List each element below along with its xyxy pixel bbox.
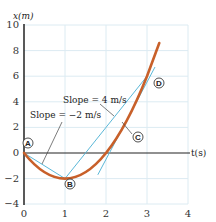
svg-text:A: A	[25, 139, 31, 148]
slope-pos-label: Slope = 4 m/s	[63, 95, 127, 105]
x-tick-labels: 0 1 2 3 4	[21, 208, 191, 219]
slope-neg-label: Slope = −2 m/s	[30, 110, 102, 120]
svg-text:8: 8	[13, 45, 19, 56]
svg-text:0: 0	[13, 147, 19, 158]
svg-text:1: 1	[62, 208, 68, 219]
svg-text:6: 6	[13, 70, 19, 81]
svg-text:4: 4	[13, 96, 19, 107]
svg-text:3: 3	[144, 208, 150, 219]
x-axis-label: t(s)	[191, 148, 206, 158]
y-axis-label: x(m)	[13, 11, 34, 21]
svg-text:−4: −4	[4, 198, 19, 209]
svg-text:2: 2	[13, 121, 19, 132]
leader-slope-pos	[100, 104, 114, 116]
point-a: A	[23, 138, 33, 148]
svg-text:−2: −2	[4, 173, 19, 184]
svg-text:4: 4	[185, 208, 191, 219]
svg-text:D: D	[156, 79, 162, 88]
point-d: D	[154, 78, 164, 88]
leader-slope-neg	[42, 122, 62, 164]
svg-text:0: 0	[21, 208, 27, 219]
point-c: C	[133, 132, 143, 142]
chord-a-b	[24, 153, 65, 179]
svg-text:C: C	[135, 133, 141, 142]
svg-text:B: B	[67, 180, 73, 189]
svg-text:2: 2	[103, 208, 109, 219]
y-tick-labels: 10 8 6 4 2 0 −2 −4	[4, 19, 19, 209]
point-b: B	[65, 179, 75, 189]
position-time-chart: 10 8 6 4 2 0 −2 −4 0 1 2 3 4 x(m) t(s) S…	[0, 0, 216, 222]
